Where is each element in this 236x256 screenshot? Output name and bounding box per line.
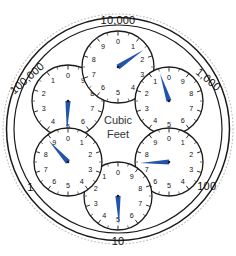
dial-numeral: 1 — [131, 42, 135, 51]
dial-multiplier-label: 10 — [112, 235, 125, 247]
dial-hub — [67, 161, 70, 164]
dial-numeral: 1 — [80, 138, 84, 147]
dial-numeral: 2 — [94, 184, 98, 193]
dial-numeral: 7 — [138, 199, 142, 208]
dial-numeral: 4 — [153, 116, 157, 125]
center-label-cubic: Cubic — [104, 114, 133, 126]
meter-svg: 0123456789100,000012345678910,0000123456… — [0, 0, 236, 256]
dial-numeral: 4 — [80, 177, 84, 186]
dial-numeral: 9 — [101, 42, 105, 51]
dial-hub — [117, 195, 120, 198]
dial-hub — [67, 100, 70, 103]
dial-multiplier-label: 1 — [27, 181, 33, 193]
dial-numeral: 9 — [153, 138, 157, 147]
dial-hub — [168, 100, 171, 103]
dial-numeral: 3 — [42, 104, 46, 113]
dial-numeral: 1 — [181, 138, 185, 147]
dial-hub — [117, 66, 120, 69]
dial-numeral: 1 — [153, 77, 157, 86]
dial-multiplier-label: 100 — [197, 180, 216, 192]
gas-meter-face: 0123456789100,000012345678910,0000123456… — [0, 0, 236, 256]
dial-numeral: 6 — [130, 211, 134, 220]
dial-numeral: 6 — [101, 83, 105, 92]
dial-numeral: 6 — [81, 117, 85, 126]
dial-numeral: 2 — [140, 55, 144, 64]
dial-hub — [168, 161, 171, 164]
dial-numeral: 6 — [181, 116, 185, 125]
dial-numeral: 9 — [181, 77, 185, 86]
dial-numeral: 2 — [88, 150, 92, 159]
dial-numeral: 4 — [181, 177, 185, 186]
dial-numeral: 7 — [90, 104, 94, 113]
dial-numeral: 4 — [102, 211, 106, 220]
dial-numeral: 0 — [116, 168, 120, 177]
dial-numeral: 5 — [66, 181, 70, 190]
dial-numeral: 3 — [88, 165, 92, 174]
dial-numeral: 8 — [92, 55, 96, 64]
dial-numeral: 0 — [66, 71, 70, 80]
dial-numeral: 7 — [44, 165, 48, 174]
dial-numeral: 5 — [167, 181, 171, 190]
dial-numeral: 8 — [145, 150, 149, 159]
dial-numeral: 8 — [189, 89, 193, 98]
dial-numeral: 9 — [130, 172, 134, 181]
dial-numeral: 3 — [189, 165, 193, 174]
dial-numeral: 7 — [189, 104, 193, 113]
dial-numeral: 8 — [44, 150, 48, 159]
dial-multiplier-label: 10,000 — [101, 14, 136, 26]
dial-numeral: 2 — [189, 150, 193, 159]
dial-numeral: 5 — [116, 88, 120, 97]
dial-numeral: 3 — [94, 199, 98, 208]
center-label-feet: Feet — [107, 128, 129, 140]
dial-numeral: 4 — [51, 117, 55, 126]
dial-numeral: 1 — [102, 172, 106, 181]
dial-numeral: 0 — [167, 73, 171, 82]
dial-numeral: 0 — [66, 134, 70, 143]
dial-numeral: 6 — [52, 177, 56, 186]
dial-numeral: 8 — [138, 184, 142, 193]
dial-numeral: 7 — [92, 70, 96, 79]
dial-numeral: 7 — [145, 165, 149, 174]
dial-numeral: 0 — [116, 37, 120, 46]
dial-numeral: 3 — [145, 104, 149, 113]
dial-numeral: 2 — [42, 89, 46, 98]
dial-numeral: 6 — [153, 177, 157, 186]
dial-numeral: 2 — [145, 89, 149, 98]
dial-numeral: 0 — [167, 134, 171, 143]
dial-numeral: 4 — [131, 83, 135, 92]
dial-numeral: 1 — [51, 76, 55, 85]
